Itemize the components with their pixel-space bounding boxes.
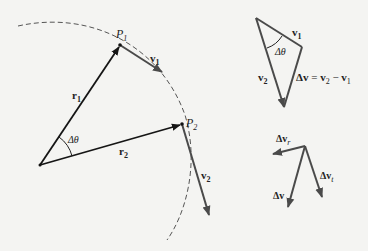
r1-label: r1 xyxy=(72,89,81,104)
origin-point xyxy=(39,164,42,167)
triangle-v2-label: v2 xyxy=(258,71,268,86)
circular-motion-diagram: P1 P2 r1 r2 v1 v2 Δθ v1 v2 xyxy=(0,0,368,251)
delta-v-radial-vector xyxy=(273,146,305,154)
point-p1 xyxy=(118,43,122,47)
delta-v-vector xyxy=(288,146,305,207)
left-panel: P1 P2 r1 r2 v1 v2 Δθ xyxy=(18,22,211,240)
delta-v-tangential-label: Δvt xyxy=(320,170,334,184)
circular-path-arc xyxy=(18,22,191,240)
velocity-triangle: v1 v2 Δθ Δv = v2 − v1 xyxy=(256,18,351,107)
p1-label: P1 xyxy=(115,27,127,43)
delta-v-radial-label: Δvr xyxy=(276,133,291,147)
point-p2 xyxy=(180,122,184,126)
r2-label: r2 xyxy=(119,145,128,160)
delta-v-equation: Δv = v2 − v1 xyxy=(296,71,351,86)
r2-vector xyxy=(40,125,180,165)
delta-v-label: Δv xyxy=(273,190,284,201)
delta-theta-label: Δθ xyxy=(67,134,79,145)
triangle-v1-label: v1 xyxy=(292,26,302,41)
triangle-angle-label: Δθ xyxy=(274,46,286,57)
delta-v-components: Δvr Δvt Δv xyxy=(273,133,334,207)
triangle-v2 xyxy=(256,18,284,107)
r1-vector xyxy=(40,47,119,165)
v2-label: v2 xyxy=(201,169,211,184)
p2-label: P2 xyxy=(185,116,197,132)
